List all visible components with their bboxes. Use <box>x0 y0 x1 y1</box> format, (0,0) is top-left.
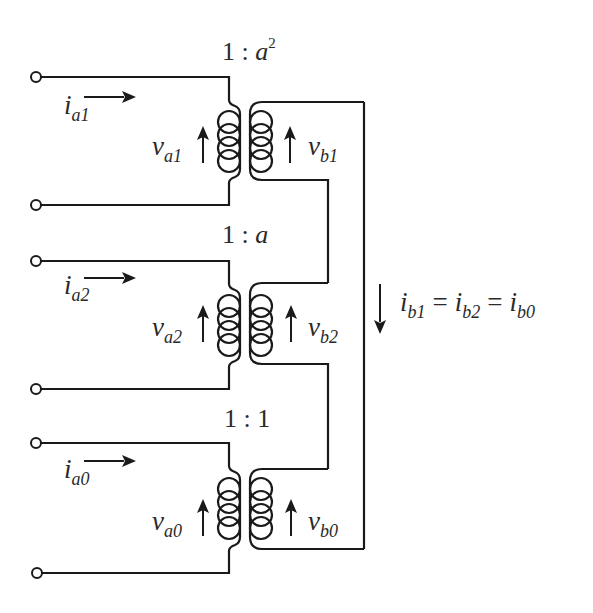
symbol-sub: b1 <box>320 146 338 166</box>
label-v-a2: va2 <box>152 314 182 346</box>
secondary-coil-1 <box>250 111 272 172</box>
symbol-base: v <box>308 131 320 161</box>
symbol-base: v <box>308 312 320 342</box>
ratio-label-0: 1 : 1 <box>224 406 270 432</box>
label-i-a0: ia0 <box>64 456 90 488</box>
primary-coil-0 <box>218 478 240 539</box>
terminal-a0-top <box>31 438 41 448</box>
terminal-a2-bottom <box>31 384 41 394</box>
terminal-a2-top <box>31 256 41 266</box>
symbol-sub: b2 <box>462 302 480 322</box>
ratio-sep: : <box>242 220 249 249</box>
ratio-var: a <box>255 220 268 249</box>
symbol-base: i <box>400 287 408 317</box>
ratio-left: 1 <box>222 37 235 66</box>
label-v-a1: va1 <box>152 133 182 165</box>
primary-bottom-wire-2 <box>40 353 240 389</box>
ratio-exp: 2 <box>268 35 276 51</box>
ratio-sep: : <box>244 404 251 433</box>
symbol-base: v <box>152 131 164 161</box>
symbol-sub: a2 <box>72 285 90 305</box>
symbol-base: v <box>308 506 320 536</box>
primary-coil-1 <box>218 111 240 172</box>
ratio-left: 1 <box>222 220 235 249</box>
symbol-sub: a2 <box>164 327 182 347</box>
primary-coil-2 <box>218 295 240 356</box>
label-v-b1: vb1 <box>308 133 338 165</box>
ratio-sep: : <box>242 37 249 66</box>
symbol-base: i <box>510 287 518 317</box>
symbol-base: i <box>64 270 72 300</box>
secondary-coil-2 <box>250 295 272 356</box>
label-i-a2: ia2 <box>64 272 90 304</box>
ratio-label-2: 1 : a <box>222 222 268 248</box>
secondary-top-wire-2 <box>250 283 328 295</box>
current-arrowhead-a2 <box>122 272 136 284</box>
secondary-bottom-wire-0 <box>250 537 364 549</box>
label-v-a0: va0 <box>152 508 182 540</box>
label-v-b2: vb2 <box>308 314 338 346</box>
ratio-var: 1 <box>257 404 270 433</box>
ratio-var: a <box>255 37 268 66</box>
ratio-label-1: 1 : a2 <box>222 36 276 65</box>
symbol-base: i <box>64 90 72 120</box>
terminal-a1-bottom <box>31 200 41 210</box>
symbol-sub: a1 <box>164 146 182 166</box>
symbol-sub: b0 <box>320 521 338 541</box>
symbol-sub: a0 <box>72 469 90 489</box>
terminal-a0-bottom <box>32 568 42 578</box>
label-v-b0: vb0 <box>308 508 338 540</box>
primary-bottom-wire-1 <box>40 169 240 205</box>
loop-current-arrowhead <box>374 320 386 334</box>
equals-sign: = <box>487 287 502 317</box>
symbol-sub: b0 <box>517 302 535 322</box>
symbol-base: i <box>64 454 72 484</box>
secondary-top-wire-0 <box>250 469 328 481</box>
symbol-sub: a1 <box>72 105 90 125</box>
symbol-sub: b1 <box>408 302 426 322</box>
primary-bottom-wire-0 <box>40 537 240 573</box>
symbol-base: v <box>152 312 164 342</box>
current-arrowhead-a1 <box>122 91 136 103</box>
label-i-a1: ia1 <box>64 92 90 124</box>
terminal-a1-top <box>31 72 41 82</box>
symbol-base: v <box>152 506 164 536</box>
secondary-coil-0 <box>250 478 272 539</box>
current-arrowhead-a0 <box>122 455 136 467</box>
symbol-sub: a0 <box>164 521 182 541</box>
equals-sign: = <box>433 287 448 317</box>
loop-current-equation: ib1=ib2=ib0 <box>400 289 535 321</box>
symbol-sub: b2 <box>320 327 338 347</box>
ratio-left: 1 <box>224 404 237 433</box>
